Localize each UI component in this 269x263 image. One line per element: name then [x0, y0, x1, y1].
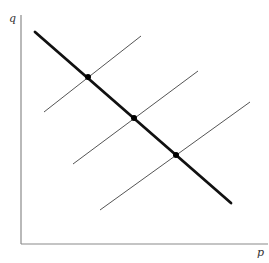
y-axis-label: q [9, 12, 16, 25]
thin-line-1 [44, 36, 141, 112]
thin-lines [44, 36, 250, 210]
x-axis-label: p [257, 246, 264, 259]
intersection-point-3 [173, 152, 179, 158]
intersection-point-2 [131, 115, 137, 121]
intersection-point-1 [85, 74, 91, 80]
diagram: q p [0, 0, 269, 263]
